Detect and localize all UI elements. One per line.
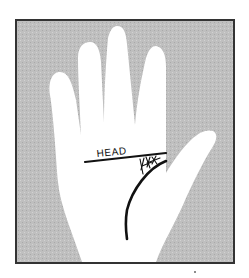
diagram-canvas: HEAD xyxy=(0,0,249,278)
palmistry-diagram: HEAD xyxy=(0,0,249,278)
print-speck xyxy=(194,271,196,273)
